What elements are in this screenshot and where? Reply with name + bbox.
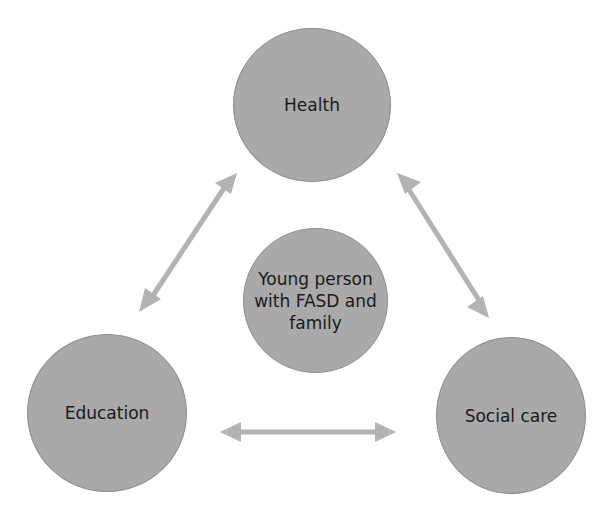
health-label: Health — [284, 94, 340, 116]
center-label-line-1: Young person — [254, 268, 377, 290]
education-label: Education — [65, 402, 150, 424]
social-care-label: Social care — [465, 405, 558, 427]
social-care-node: Social care — [436, 337, 586, 494]
center-label-line-3: family — [254, 312, 377, 334]
arrow-health-education — [139, 173, 237, 312]
young-person-node: Young person with FASD and family — [243, 228, 388, 373]
center-label-line-2: with FASD and — [254, 290, 377, 312]
education-node: Education — [27, 334, 187, 492]
arrow-education-social-care — [220, 422, 396, 442]
arrow-health-social-care — [397, 173, 489, 318]
health-node: Health — [233, 28, 391, 182]
